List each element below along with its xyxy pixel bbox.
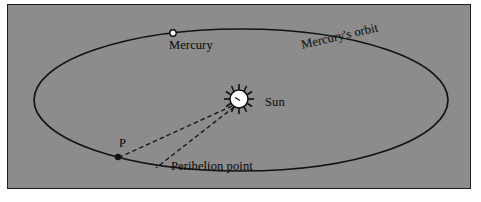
mercury-planet-icon	[170, 30, 176, 36]
label-sun: Sun	[265, 96, 285, 109]
perihelion-point-dot	[115, 154, 121, 160]
sun-disc	[230, 90, 248, 108]
sun-icon	[224, 84, 254, 114]
label-p: P	[119, 137, 126, 150]
dashed-line-sun-to-p	[120, 106, 232, 157]
label-mercury: Mercury	[169, 39, 213, 52]
label-perihelion-point: Perihelion point	[171, 160, 253, 173]
figure-root: Mercury Mercury's orbit Sun P Perihelion…	[0, 0, 481, 202]
diagram-panel: Mercury Mercury's orbit Sun P Perihelion…	[7, 4, 471, 189]
